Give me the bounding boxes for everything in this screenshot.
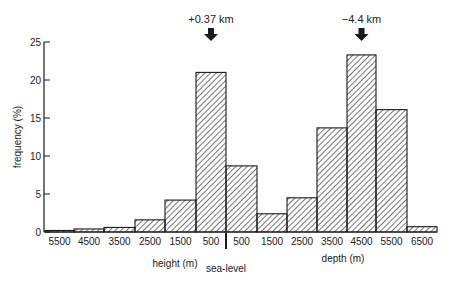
y-tick-label: 0: [35, 227, 41, 238]
bars: [45, 55, 437, 232]
x-tick-label: 1500: [261, 236, 284, 247]
x-tick-label: 2500: [139, 236, 162, 247]
histogram-bar: [104, 227, 135, 232]
annotations: +0.37 km−4.4 km: [188, 13, 381, 41]
y-tick-label: 25: [30, 37, 42, 48]
x-tick-label: 6500: [411, 236, 434, 247]
histogram-bar: [135, 220, 165, 232]
y-tick-label: 20: [30, 75, 42, 86]
peak-annotation: −4.4 km: [342, 13, 381, 25]
histogram-bar: [287, 198, 317, 232]
y-tick-label: 5: [35, 189, 41, 200]
x-tick-label: 3500: [321, 236, 344, 247]
x-axis-label-depth: depth (m): [322, 253, 365, 264]
y-axis-label: frequency (%): [12, 106, 23, 168]
x-tick-label: 500: [233, 236, 250, 247]
histogram-bar: [226, 166, 257, 232]
down-arrow-icon: [204, 28, 218, 41]
histogram-bar: [196, 72, 226, 232]
x-tick-labels: 5500450035002500150050050015002500350045…: [48, 233, 433, 249]
x-tick-label: 5500: [48, 236, 71, 247]
histogram-bar: [347, 55, 376, 232]
down-arrow-icon: [355, 28, 369, 41]
histogram-bar: [165, 200, 196, 232]
y-axis: 0510152025: [30, 37, 50, 238]
x-tick-label: 1500: [169, 236, 192, 247]
histogram-chart: 0510152025 55004500350025001500500500150…: [0, 0, 452, 282]
x-tick-label: 500: [203, 236, 220, 247]
x-tick-label: 2500: [291, 236, 314, 247]
histogram-bar: [376, 110, 407, 232]
x-tick-label: 4500: [78, 236, 101, 247]
histogram-bar: [317, 128, 347, 232]
x-axis-label-height: height (m): [152, 258, 197, 269]
histogram-bar: [407, 227, 437, 232]
y-tick-label: 10: [30, 151, 42, 162]
x-tick-label: 3500: [108, 236, 131, 247]
sea-level-label: sea-level: [206, 263, 246, 274]
x-tick-label: 4500: [350, 236, 373, 247]
peak-annotation: +0.37 km: [188, 13, 234, 25]
x-tick-label: 5500: [380, 236, 403, 247]
y-tick-label: 15: [30, 113, 42, 124]
histogram-bar: [257, 214, 287, 232]
